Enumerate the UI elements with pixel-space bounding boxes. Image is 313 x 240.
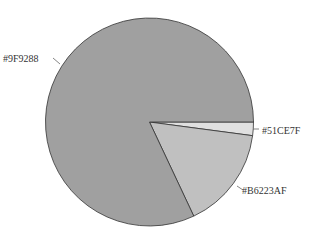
pie-chart: #9F9288 #51CE7F #B6223AF — [0, 0, 313, 240]
pie-chart-canvas: #9F9288 #51CE7F #B6223AF — [0, 0, 313, 240]
slice-label-51ce7f: #51CE7F — [262, 125, 301, 136]
leader-line — [53, 58, 60, 64]
slice-label-9f9288: #9F9288 — [3, 53, 39, 64]
pie-slices — [46, 18, 254, 226]
slice-label-b6223af: #B6223AF — [242, 185, 287, 196]
